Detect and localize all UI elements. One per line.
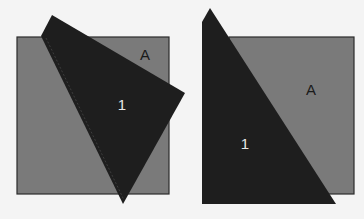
right-triangle-label: 1 bbox=[241, 135, 249, 152]
diagram-svg: A 1 A 1 bbox=[0, 0, 364, 219]
left-square-label: A bbox=[140, 46, 150, 63]
left-triangle-label: 1 bbox=[118, 96, 126, 113]
right-square-label: A bbox=[306, 81, 316, 98]
diagram-canvas: A 1 A 1 bbox=[0, 0, 364, 219]
right-panel: A 1 bbox=[202, 8, 354, 204]
left-panel: A 1 bbox=[17, 15, 185, 204]
